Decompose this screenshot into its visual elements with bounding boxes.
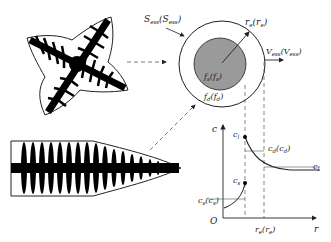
surface-pointer-arrow [166, 28, 184, 36]
x-tick-label: re(re) [255, 225, 275, 235]
solid-concentration-curve [224, 183, 245, 208]
cs-label: cs(cs) [198, 196, 219, 206]
cl-star-label: cl [233, 130, 239, 140]
dashed-arrow-columnar [150, 105, 195, 150]
cd-label: cd(cd) [268, 144, 290, 154]
concentration-plot: c r O re(re) cl cs cd(cd) cl cs(cs) [198, 124, 320, 235]
velocity-label: Vess(Vess) [266, 47, 302, 57]
radius-label: re(re) [245, 17, 268, 28]
columnar-dendrite [11, 141, 181, 196]
outer-fraction-label: fd(fd) [203, 92, 223, 102]
cl-star-point [243, 135, 247, 139]
envelope-model [166, 21, 283, 107]
solidification-model-diagram: Sess(Sess) re(re) Vess(Vess) fs(fs) fd(f… [0, 0, 331, 242]
origin-label: O [210, 216, 218, 226]
inner-solid-circle [194, 38, 246, 90]
inner-fraction-label: fs(fs) [203, 72, 222, 82]
cl-label: cl [313, 162, 319, 172]
cs-star-point [243, 181, 247, 185]
outer-surface-label: Sess(Sess) [144, 14, 182, 25]
cs-star-label: cs [233, 176, 240, 186]
equiaxed-dendrite [27, 17, 128, 115]
y-axis-label: c [212, 124, 217, 134]
liquid-concentration-curve [245, 137, 320, 170]
x-axis-label: r [314, 224, 319, 234]
